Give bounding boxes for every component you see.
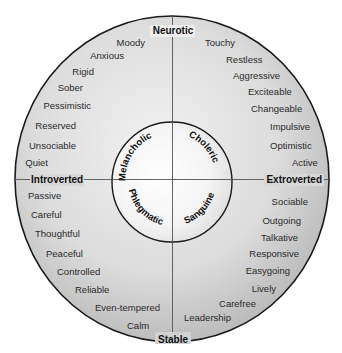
trait-label: Calm xyxy=(127,320,149,331)
trait-label: Optimistic xyxy=(270,140,312,151)
trait-label: Outgoing xyxy=(262,215,301,226)
trait-label: Exciteable xyxy=(248,86,292,97)
trait-label: Leadership xyxy=(184,312,231,323)
trait-label: Passive xyxy=(28,190,61,201)
personality-wheel: Neurotic Stable Introverted Extroverted … xyxy=(0,0,342,353)
trait-label: Pessimistic xyxy=(43,100,91,111)
trait-label: Thoughtful xyxy=(35,228,80,239)
trait-label: Moody xyxy=(116,37,145,48)
trait-label: Anxious xyxy=(90,50,124,61)
trait-label: Restless xyxy=(226,54,263,65)
trait-label: Lively xyxy=(252,283,277,294)
trait-label: Aggressive xyxy=(233,70,280,81)
trait-label: Peaceful xyxy=(46,248,83,259)
trait-label: Touchy xyxy=(205,37,235,48)
trait-label: Reliable xyxy=(75,284,109,295)
trait-label: Sociable xyxy=(272,196,308,207)
trait-label: Sober xyxy=(58,82,83,93)
trait-label: Careful xyxy=(31,209,62,220)
trait-label: Unsociable xyxy=(29,140,76,151)
trait-label: Controlled xyxy=(57,266,100,277)
trait-label: Reserved xyxy=(35,120,76,131)
axis-label-introverted: Introverted xyxy=(31,174,83,185)
trait-label: Responsive xyxy=(249,248,299,259)
trait-label: Changeable xyxy=(251,103,302,114)
axis-label-extroverted: Extroverted xyxy=(266,174,322,185)
trait-label: Quiet xyxy=(25,157,48,168)
trait-label: Carefree xyxy=(219,298,256,309)
inner-circle xyxy=(112,122,232,242)
trait-label: Talkative xyxy=(261,232,298,243)
axis-label-stable: Stable xyxy=(158,334,188,345)
trait-label: Active xyxy=(292,157,318,168)
trait-label: Easygoing xyxy=(246,265,290,276)
trait-label: Even-tempered xyxy=(95,302,160,313)
trait-label: Rigid xyxy=(72,66,94,77)
trait-label: Impulsive xyxy=(270,121,310,132)
axis-label-neurotic: Neurotic xyxy=(153,25,194,36)
